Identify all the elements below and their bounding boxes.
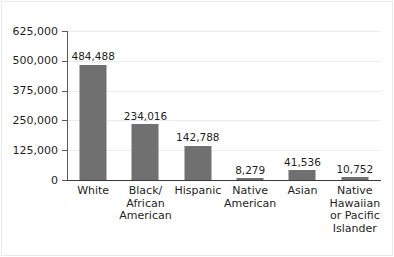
y-axis-tick-label: 625,000 <box>0 26 58 37</box>
bar-value-label: 41,536 <box>284 157 321 168</box>
y-axis-tick-label: 375,000 <box>0 85 58 96</box>
bar[interactable] <box>184 146 211 180</box>
bar-value-label: 142,788 <box>176 132 219 143</box>
bar[interactable] <box>132 124 159 180</box>
y-axis-tick-label: 250,000 <box>0 115 58 126</box>
bar-slot: 142,788 <box>172 31 224 180</box>
y-axis-line <box>67 31 68 181</box>
bar-value-label: 10,752 <box>336 164 373 175</box>
category-label-line: American <box>114 210 178 223</box>
category-label-line: Native <box>323 185 387 198</box>
x-axis-line <box>67 180 381 181</box>
y-axis-tick-label: 0 <box>0 175 58 186</box>
bar-slot: 41,536 <box>276 31 328 180</box>
category-label-line: or Pacific <box>323 210 387 223</box>
bar-slot: 8,279 <box>224 31 276 180</box>
bar-slot: 10,752 <box>329 31 381 180</box>
y-axis-tick-label: 125,000 <box>0 145 58 156</box>
bar-slot: 234,016 <box>119 31 171 180</box>
category-label-line: American <box>218 198 282 211</box>
y-axis-tick-label: 500,000 <box>0 55 58 66</box>
bar[interactable] <box>289 170 316 180</box>
plot-area: 484,488234,016142,7888,27941,53610,752 <box>67 31 381 180</box>
bar-value-label: 234,016 <box>124 111 167 122</box>
bar-value-label: 8,279 <box>235 165 265 176</box>
bar-chart: 0125,000250,000375,000500,000625,000 484… <box>0 0 394 257</box>
category-label-line: Islander <box>323 223 387 236</box>
bar[interactable] <box>80 65 107 181</box>
x-axis-category-label: NativeHawaiianor PacificIslander <box>323 185 387 235</box>
bar-slot: 484,488 <box>67 31 119 180</box>
bar-value-label: 484,488 <box>71 51 114 62</box>
